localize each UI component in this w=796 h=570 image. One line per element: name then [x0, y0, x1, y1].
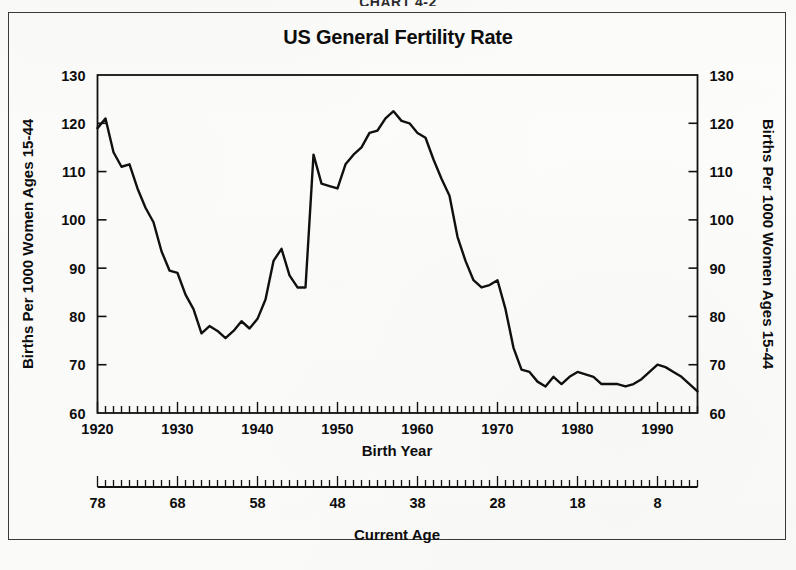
y-tick-label-left: 60	[69, 406, 85, 422]
age-tick-label: 68	[169, 495, 185, 511]
y-tick-label-right: 110	[710, 164, 733, 180]
age-tick-label: 8	[653, 495, 661, 511]
x-tick-label: 1990	[641, 421, 673, 437]
y-tick-label-right: 90	[710, 261, 726, 277]
secondary-age-axis	[98, 476, 698, 487]
y-tick-label-left: 120	[61, 116, 85, 132]
x-axis-labels: 19201930194019501960197019801990	[81, 421, 673, 437]
y-tick-label-left: 80	[69, 309, 85, 325]
data-series-line	[98, 111, 698, 391]
x-axis-ticks	[98, 402, 698, 413]
y-tick-label-right: 60	[710, 406, 726, 422]
x-tick-label: 1980	[561, 421, 593, 437]
x-tick-label: 1970	[481, 421, 513, 437]
age-tick-label: 18	[569, 495, 585, 511]
x-axis-title: Birth Year	[362, 442, 433, 459]
age-tick-label: 48	[329, 495, 345, 511]
y-tick-label-right: 80	[710, 309, 726, 325]
age-tick-label: 58	[249, 495, 265, 511]
y-tick-label-left: 70	[69, 357, 85, 373]
age-tick-label: 38	[409, 495, 425, 511]
y-tick-label-right: 70	[710, 357, 726, 373]
y-tick-label-right: 130	[710, 68, 734, 84]
y-tick-label-left: 110	[62, 164, 85, 180]
fertility-rate-line	[98, 111, 698, 391]
chart-page: CHART 4-2 US General Fertility Rate Birt…	[0, 0, 796, 570]
y-axis-title-right: Births Per 1000 Women Ages 15-44	[760, 119, 777, 370]
y-tick-label-left: 100	[61, 212, 85, 228]
secondary-axis-title: Current Age	[354, 526, 440, 543]
y-tick-label-right: 120	[710, 116, 734, 132]
age-tick-label: 78	[89, 495, 105, 511]
y-axis-ticks-left	[98, 123, 107, 364]
y-axis-labels-left: 60708090100110120130	[61, 68, 85, 422]
secondary-age-axis-labels: 786858483828188	[89, 495, 661, 511]
x-tick-label: 1960	[401, 421, 433, 437]
x-tick-label: 1920	[81, 421, 113, 437]
y-axis-labels-right: 60708090100110120130	[710, 68, 734, 422]
plot-border	[98, 75, 698, 413]
y-tick-label-left: 90	[69, 261, 85, 277]
y-tick-label-right: 100	[710, 212, 734, 228]
x-tick-label: 1950	[321, 421, 353, 437]
y-axis-title-left: Births Per 1000 Women Ages 15-44	[19, 118, 36, 369]
y-axis-ticks-right	[689, 123, 698, 364]
x-tick-label: 1930	[161, 421, 193, 437]
fertility-rate-line-chart: Births Per 1000 Women Ages 15-44 Births …	[0, 0, 796, 570]
age-tick-label: 28	[489, 495, 505, 511]
y-tick-label-left: 130	[61, 68, 85, 84]
plot-area-border	[98, 75, 698, 413]
x-tick-label: 1940	[241, 421, 273, 437]
